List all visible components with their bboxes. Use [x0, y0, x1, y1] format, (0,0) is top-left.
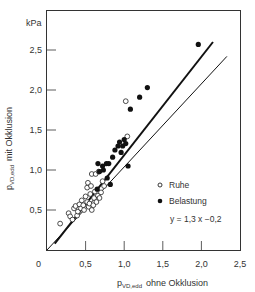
- y-tick-label: 2,0: [29, 85, 42, 95]
- legend-label-belastung: Belastung: [169, 196, 207, 206]
- legend-label-ruhe: Ruhe: [169, 180, 190, 190]
- data-point-belastung: [106, 161, 111, 166]
- data-point-belastung: [196, 42, 201, 47]
- y-tick-label: 1,0: [29, 165, 42, 175]
- data-point-belastung: [108, 182, 113, 187]
- data-point-belastung: [95, 187, 100, 192]
- svg-text:pVD,eddmit Okklusion: pVD,eddmit Okklusion: [4, 107, 15, 190]
- data-point-ruhe: [123, 99, 128, 104]
- scatter-chart: 0,51,01,52,02,50,51,01,52,02,5 kPa 0 pVD…: [0, 0, 255, 292]
- x-tick-label: 1,5: [157, 259, 170, 269]
- data-point-belastung: [125, 163, 130, 168]
- equation-annotation: y = 1,3 x −0,2: [170, 214, 222, 224]
- data-point-belastung: [128, 107, 133, 112]
- data-point-ruhe: [100, 179, 105, 184]
- x-tick-label: 2,5: [234, 259, 247, 269]
- y-tick-label: 0,5: [29, 205, 42, 215]
- data-point-ruhe: [88, 192, 93, 197]
- y-axis-title: pVD,eddmit Okklusion: [4, 107, 15, 190]
- data-point-ruhe: [102, 184, 107, 189]
- data-point-belastung: [101, 167, 106, 172]
- data-point-ruhe: [83, 194, 88, 199]
- legend-filled-circle-icon: [158, 199, 163, 204]
- data-point-belastung: [123, 141, 128, 146]
- data-point-ruhe: [89, 208, 94, 213]
- data-point-ruhe: [89, 184, 94, 189]
- origin-label: 0: [36, 259, 41, 269]
- data-point-belastung: [105, 175, 110, 180]
- data-point-ruhe: [70, 217, 75, 222]
- data-point-belastung: [110, 155, 115, 160]
- x-tick-label: 2,0: [195, 259, 208, 269]
- data-point-ruhe: [58, 221, 63, 226]
- data-point-ruhe: [97, 196, 102, 201]
- legend: Ruhe Belastung y = 1,3 x −0,2: [158, 180, 222, 224]
- data-point-ruhe: [79, 198, 84, 203]
- data-point-ruhe: [82, 208, 87, 213]
- legend-open-circle-icon: [158, 183, 162, 187]
- data-point-ruhe: [99, 190, 104, 195]
- x-tick-label: 1,0: [118, 259, 131, 269]
- data-point-belastung: [119, 150, 124, 155]
- y-tick-label: 2,5: [29, 45, 42, 55]
- data-point-belastung: [145, 85, 150, 90]
- x-axis-title: pVD,eddohne Okklusion: [117, 278, 208, 289]
- svg-text:pVD,eddohne Okklusion: pVD,eddohne Okklusion: [117, 278, 208, 289]
- data-point-belastung: [137, 95, 142, 100]
- y-tick-label: 1,5: [29, 125, 42, 135]
- y-unit-label: kPa: [26, 18, 42, 28]
- data-point-belastung: [95, 161, 100, 166]
- x-tick-label: 0,5: [79, 259, 92, 269]
